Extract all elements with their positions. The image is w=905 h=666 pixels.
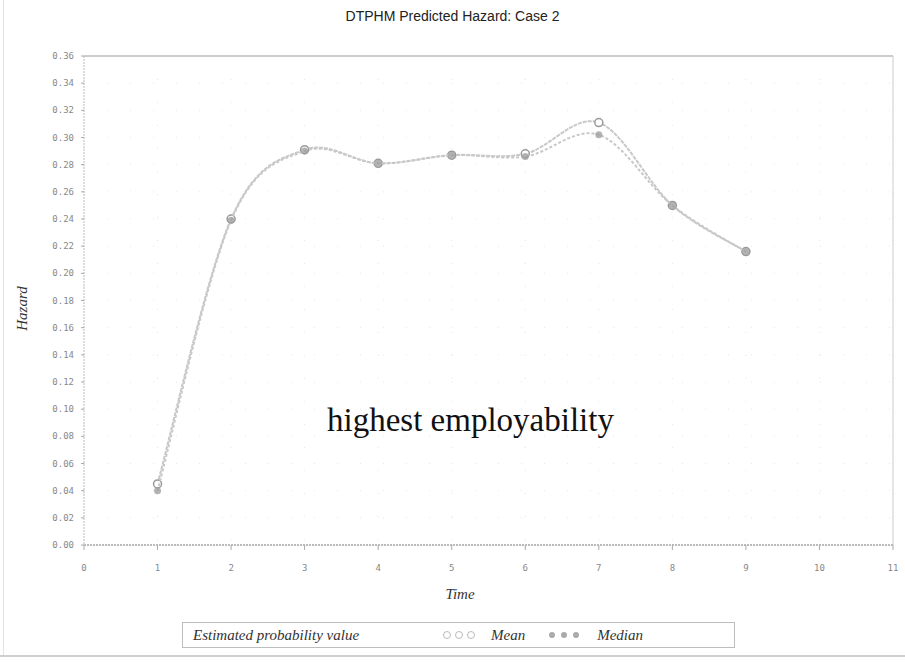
x-tick-label: 7 xyxy=(596,563,601,573)
median-marker xyxy=(742,248,749,255)
y-tick-label: 0.08 xyxy=(52,431,74,441)
plot-area: 0.000.020.040.060.080.100.120.140.160.18… xyxy=(0,0,905,666)
legend: Estimated probability value Mean Median xyxy=(182,622,735,648)
y-tick-label: 0.18 xyxy=(52,296,74,306)
median-marker xyxy=(522,153,529,160)
y-tick-label: 0.30 xyxy=(52,133,74,143)
x-tick-label: 5 xyxy=(449,563,454,573)
legend-title: Estimated probability value xyxy=(193,627,443,644)
x-tick-label: 2 xyxy=(228,563,233,573)
y-tick-label: 0.20 xyxy=(52,268,74,278)
y-axis-label: Hazard xyxy=(14,279,31,339)
x-tick-label: 10 xyxy=(814,563,825,573)
y-tick-label: 0.26 xyxy=(52,187,74,197)
filled-circle-marker-icon xyxy=(549,632,585,638)
median-marker xyxy=(301,148,308,155)
median-marker xyxy=(154,487,161,494)
y-tick-label: 0.34 xyxy=(52,78,74,88)
legend-item-median: Median xyxy=(549,627,643,644)
median-marker xyxy=(375,160,382,167)
legend-label-median: Median xyxy=(597,627,643,644)
x-tick-label: 1 xyxy=(155,563,160,573)
open-circle-marker-icon xyxy=(443,631,479,639)
x-axis-label: Time xyxy=(430,586,490,603)
median-marker xyxy=(669,202,676,209)
y-tick-label: 0.04 xyxy=(52,486,74,496)
y-tick-label: 0.16 xyxy=(52,323,74,333)
mean-marker xyxy=(595,119,603,127)
y-tick-label: 0.36 xyxy=(52,51,74,61)
y-tick-label: 0.22 xyxy=(52,241,74,251)
y-tick-label: 0.00 xyxy=(52,540,74,550)
x-tick-label: 8 xyxy=(670,563,675,573)
y-tick-label: 0.10 xyxy=(52,404,74,414)
x-tick-label: 3 xyxy=(302,563,307,573)
x-tick-label: 11 xyxy=(888,563,899,573)
frame-bottom-border xyxy=(0,655,905,657)
x-tick-label: 9 xyxy=(743,563,748,573)
y-tick-label: 0.24 xyxy=(52,214,74,224)
y-tick-label: 0.28 xyxy=(52,160,74,170)
x-tick-label: 0 xyxy=(81,563,86,573)
y-tick-label: 0.06 xyxy=(52,459,74,469)
y-tick-label: 0.02 xyxy=(52,513,74,523)
x-tick-label: 4 xyxy=(375,563,380,573)
median-marker xyxy=(595,131,602,138)
chart-annotation: highest employability xyxy=(327,402,614,439)
median-marker xyxy=(448,152,455,159)
y-tick-label: 0.14 xyxy=(52,350,74,360)
median-marker xyxy=(228,217,235,224)
legend-label-mean: Mean xyxy=(491,627,525,644)
legend-item-mean: Mean xyxy=(443,627,525,644)
x-tick-label: 6 xyxy=(523,563,528,573)
y-tick-label: 0.12 xyxy=(52,377,74,387)
y-tick-label: 0.32 xyxy=(52,105,74,115)
